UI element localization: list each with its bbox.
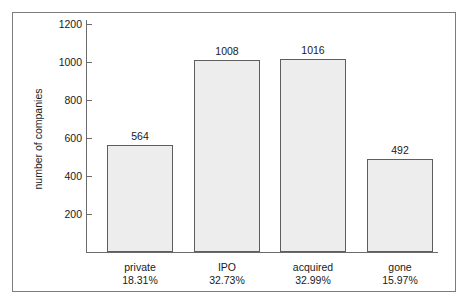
y-tick-label-600-wrap: 600 [38, 133, 82, 143]
bar-acquired[interactable] [280, 59, 346, 252]
y-tick-800 [87, 100, 92, 101]
y-axis-line [86, 20, 87, 253]
plot-area: 1200 1000 800 600 400 200 number of comp… [0, 0, 470, 306]
y-tick-1200 [87, 24, 92, 25]
bar-ipo[interactable] [194, 60, 260, 252]
x-tick-label-ipo: IPO 32.73% [187, 261, 267, 287]
x-tick-label-private-percent: 18.31% [100, 274, 180, 287]
x-tick-label-private: private 18.31% [100, 261, 180, 287]
y-tick-400 [87, 176, 92, 177]
y-tick-label-800-wrap: 800 [38, 95, 82, 105]
bar-gone[interactable] [367, 159, 433, 252]
y-tick-label-1000: 1000 [42, 57, 82, 67]
x-tick-label-gone: gone 15.97% [360, 261, 440, 287]
x-tick-label-acquired-name: acquired [273, 261, 353, 274]
y-tick-label-1200-wrap: 1200 [38, 19, 82, 29]
y-tick-label-1200: 1200 [42, 19, 82, 29]
figure: 1200 1000 800 600 400 200 number of comp… [0, 0, 470, 306]
x-tick-label-gone-name: gone [360, 261, 440, 274]
y-tick-label-600: 600 [42, 133, 82, 143]
y-axis-label: number of companies [32, 79, 44, 199]
y-tick-200 [87, 214, 92, 215]
x-tick-label-ipo-name: IPO [187, 261, 267, 274]
x-tick-label-acquired: acquired 32.99% [273, 261, 353, 287]
y-tick-label-200: 200 [42, 209, 82, 219]
y-tick-600 [87, 138, 92, 139]
bar-value-acquired: 1016 [280, 45, 346, 56]
x-tick-label-ipo-percent: 32.73% [187, 274, 267, 287]
y-tick-label-400: 400 [42, 171, 82, 181]
y-tick-label-200-wrap: 200 [38, 209, 82, 219]
x-axis-line [86, 252, 438, 253]
x-tick-label-private-name: private [100, 261, 180, 274]
bar-value-ipo: 1008 [194, 46, 260, 57]
bar-value-gone: 492 [367, 145, 433, 156]
bar-value-private: 564 [107, 131, 173, 142]
y-tick-1000 [87, 62, 92, 63]
y-tick-label-1000-wrap: 1000 [38, 57, 82, 67]
y-tick-label-400-wrap: 400 [38, 171, 82, 181]
y-tick-label-800: 800 [42, 95, 82, 105]
bar-private[interactable] [107, 145, 173, 252]
x-tick-label-gone-percent: 15.97% [360, 274, 440, 287]
x-tick-label-acquired-percent: 32.99% [273, 274, 353, 287]
